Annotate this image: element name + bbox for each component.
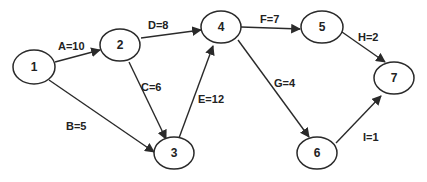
edge-2-3 bbox=[129, 62, 166, 139]
node-7: 7 bbox=[374, 62, 414, 94]
edge-label-i: I=1 bbox=[363, 131, 379, 143]
edge-label-f: F=7 bbox=[260, 13, 279, 25]
svg-text:3: 3 bbox=[171, 146, 178, 160]
edge-1-3 bbox=[49, 80, 154, 152]
svg-text:2: 2 bbox=[117, 38, 124, 52]
svg-text:7: 7 bbox=[391, 71, 398, 85]
edge-label-c: C=6 bbox=[141, 81, 162, 93]
svg-text:4: 4 bbox=[218, 20, 225, 34]
svg-text:1: 1 bbox=[31, 60, 38, 74]
edge-3-4 bbox=[179, 46, 213, 138]
svg-text:6: 6 bbox=[314, 146, 321, 160]
edge-2-4 bbox=[141, 30, 201, 38]
edge-label-b: B=5 bbox=[66, 120, 87, 132]
node-2: 2 bbox=[100, 29, 140, 61]
node-1: 1 bbox=[13, 50, 55, 84]
network-diagram: A=10 B=5 C=6 D=8 E=12 F=7 G=4 H=2 I=1 1 … bbox=[0, 0, 427, 182]
edge-label-g: G=4 bbox=[274, 77, 296, 89]
node-4: 4 bbox=[201, 11, 241, 43]
edge-4-5 bbox=[241, 27, 300, 29]
node-5: 5 bbox=[301, 11, 343, 43]
edge-label-e: E=12 bbox=[198, 93, 224, 105]
edge-label-d: D=8 bbox=[148, 19, 169, 31]
svg-text:5: 5 bbox=[319, 20, 326, 34]
node-3: 3 bbox=[154, 137, 194, 169]
edge-label-h: H=2 bbox=[358, 31, 379, 43]
node-6: 6 bbox=[297, 137, 337, 169]
edge-label-a: A=10 bbox=[58, 40, 85, 52]
